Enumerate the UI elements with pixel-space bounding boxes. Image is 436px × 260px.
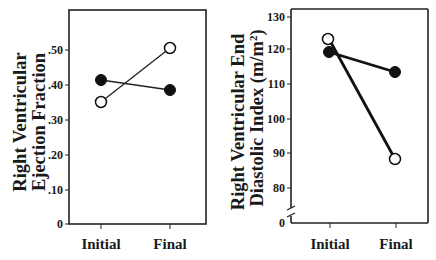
series-line-open	[101, 48, 170, 102]
y-tick-label: 120	[267, 42, 285, 56]
axis-break-icon	[287, 206, 295, 217]
y-axis-title-line2-text: Diastolic Index (m/m	[247, 41, 268, 207]
y-tick-label: .30	[48, 113, 63, 127]
figure: Right Ventricular Ejection Fraction .50 …	[0, 0, 436, 260]
y-tick-label: .40	[48, 78, 63, 92]
filled-circle-marker	[165, 85, 176, 96]
chart-ejection-fraction: Right Ventricular Ejection Fraction .50 …	[10, 10, 206, 252]
open-circle-marker	[96, 97, 107, 108]
y-tick-label: 0	[279, 216, 285, 230]
y-tick-label: 110	[268, 77, 285, 91]
y-tick-label: .10	[48, 183, 63, 197]
y-tick-label: .50	[48, 43, 63, 57]
y-tick-label: 130	[267, 10, 285, 24]
open-circle-marker	[165, 43, 176, 54]
y-tick-label: 100	[267, 112, 285, 126]
filled-circle-marker	[390, 67, 401, 78]
y-tick-label: 90	[273, 146, 285, 160]
x-label-final: Final	[153, 236, 186, 252]
y-axis-title-line1: Right Ventricular	[10, 52, 30, 191]
series-line-open	[329, 39, 395, 159]
y-axis-title-line2: Ejection Fraction	[29, 52, 49, 191]
series-line-filled	[101, 80, 170, 90]
chart-end-diastolic-index: Right Ventricular End Diastolic Index (m…	[228, 9, 428, 252]
filled-circle-marker	[324, 47, 335, 58]
y-axis-title-line1: Right Ventricular End	[228, 33, 248, 210]
x-label-final: Final	[379, 236, 412, 252]
y-tick-label: .20	[48, 148, 63, 162]
plot-frame	[69, 10, 206, 224]
open-circle-marker	[323, 34, 334, 45]
x-label-initial: Initial	[310, 236, 349, 252]
y-axis-title-suffix: )	[247, 29, 268, 35]
y-tick-label: 0	[57, 217, 63, 231]
filled-circle-marker	[96, 75, 107, 86]
open-circle-marker	[390, 154, 401, 165]
plot-frame	[291, 9, 428, 223]
x-label-initial: Initial	[81, 236, 120, 252]
y-tick-label: 80	[273, 181, 285, 195]
y-axis-title-line2: Diastolic Index (m/m2)	[247, 29, 268, 206]
